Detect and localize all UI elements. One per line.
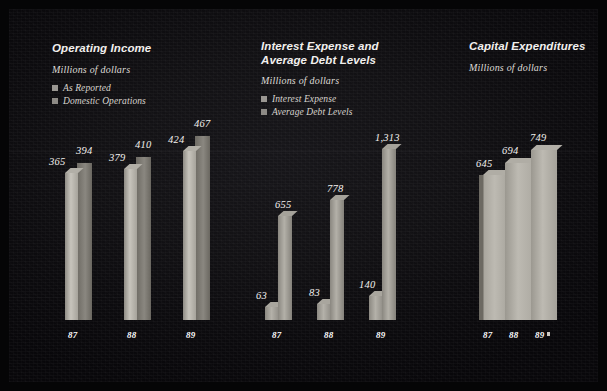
chart-subtitle-operating-income: Millions of dollars	[52, 64, 232, 75]
bar-reported-88	[124, 169, 137, 320]
legend-interest-expense: Interest Expense Average Debt Levels	[261, 94, 446, 117]
bar-value-label: 63	[256, 290, 267, 301]
bar-face	[265, 307, 278, 320]
x-axis-label-89: 89	[376, 330, 386, 340]
bar-face	[382, 149, 396, 320]
bar-interest-89	[369, 296, 382, 320]
x-axis-label-88: 88	[127, 330, 137, 340]
figure-page: Operating Income Millions of dollars As …	[0, 0, 607, 391]
bar-reported-87	[65, 173, 78, 320]
bar-domestic-89	[195, 136, 210, 320]
bar-face	[136, 157, 151, 320]
legend-item: Domestic Operations	[52, 96, 232, 106]
legend-swatch-icon	[261, 96, 267, 102]
bar-value-label: 394	[76, 145, 92, 156]
bar-domestic-88	[136, 157, 151, 320]
bar-face	[317, 304, 330, 320]
x-axis-label-88: 88	[324, 330, 334, 340]
bar-top	[330, 195, 350, 200]
bar-face	[505, 163, 531, 320]
chart-panel-capital-expenditures: Capital Expenditures Millions of dollars	[469, 40, 599, 73]
legend-swatch-icon	[52, 98, 58, 104]
bar-value-label: 140	[359, 279, 375, 290]
plot-interest-expense: 63 655 83 778 140 1,313 87 88 89	[261, 130, 441, 355]
bar-top	[531, 145, 563, 150]
bar-face	[124, 169, 137, 320]
bar-capex-87	[479, 175, 505, 320]
bar-face	[183, 151, 196, 320]
bar-top	[382, 144, 402, 149]
bar-face	[65, 173, 78, 320]
bar-debt-89	[382, 149, 396, 320]
bar-interest-87	[265, 307, 278, 320]
bar-debt-88	[330, 200, 344, 320]
bar-value-label: 694	[502, 145, 518, 156]
x-axis-label-89: 89	[535, 330, 545, 340]
bar-value-label: 410	[135, 139, 151, 150]
bar-value-label: 655	[275, 199, 291, 210]
chart-title-capital-expenditures: Capital Expenditures	[469, 40, 599, 54]
x-axis-label-89: 89	[186, 330, 196, 340]
legend-label: Average Debt Levels	[272, 107, 353, 117]
x-axis-label-87: 87	[68, 330, 78, 340]
bar-value-label: 1,313	[375, 132, 400, 143]
plot-capital-expenditures: 645 694 749 87 88 89	[469, 130, 589, 355]
bar-value-label: 645	[476, 158, 492, 169]
chart-subtitle-capital-expenditures: Millions of dollars	[469, 62, 599, 73]
chart-panel-operating-income: Operating Income Millions of dollars As …	[52, 42, 232, 109]
bar-value-label: 749	[530, 132, 546, 143]
x-axis-label-87: 87	[483, 330, 493, 340]
bar-face	[531, 150, 557, 320]
legend-label: Domestic Operations	[63, 96, 146, 106]
bar-face	[77, 163, 92, 320]
bar-capex-88	[505, 163, 531, 320]
bar-value-label: 424	[168, 134, 184, 145]
chart-panel-interest-expense: Interest Expense and Average Debt Levels…	[261, 40, 446, 120]
bar-interest-88	[317, 304, 330, 320]
legend-item: As Reported	[52, 83, 232, 93]
plot-operating-income: 365 394 379 410 424 467 87 88 89	[52, 130, 242, 355]
bar-face	[278, 216, 292, 320]
bar-value-label: 379	[109, 152, 125, 163]
bar-domestic-87	[77, 163, 92, 320]
bar-value-label: 778	[327, 183, 343, 194]
bar-face	[330, 200, 344, 320]
bar-face	[479, 175, 505, 320]
chart-subtitle-interest-expense: Millions of dollars	[261, 75, 446, 86]
bar-value-label: 365	[49, 156, 65, 167]
x-axis-label-87: 87	[272, 330, 282, 340]
legend-label: As Reported	[63, 83, 111, 93]
bar-capex-89	[531, 150, 557, 320]
bar-reported-89	[183, 151, 196, 320]
legend-item: Interest Expense	[261, 94, 446, 104]
bar-face	[369, 296, 382, 320]
legend-operating-income: As Reported Domestic Operations	[52, 83, 232, 106]
bar-value-label: 467	[194, 118, 210, 129]
bar-top	[278, 211, 298, 216]
scan-artifact	[547, 332, 550, 336]
legend-swatch-icon	[52, 85, 58, 91]
chart-title-operating-income: Operating Income	[52, 42, 232, 56]
legend-label: Interest Expense	[272, 94, 336, 104]
x-axis-label-88: 88	[509, 330, 519, 340]
bar-debt-87	[278, 216, 292, 320]
legend-swatch-icon	[261, 109, 267, 115]
chart-title-interest-expense: Interest Expense and Average Debt Levels	[261, 40, 446, 67]
bar-value-label: 83	[309, 287, 320, 298]
legend-item: Average Debt Levels	[261, 107, 446, 117]
bar-face	[195, 136, 210, 320]
